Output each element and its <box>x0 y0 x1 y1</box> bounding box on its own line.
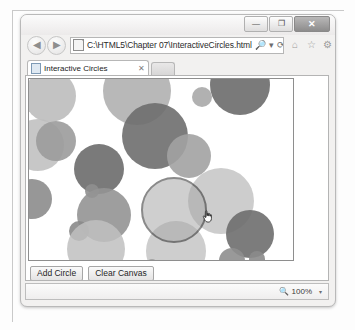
canvas-circle[interactable] <box>36 121 76 161</box>
canvas-circle[interactable] <box>28 78 76 122</box>
zoom-control[interactable]: 🔍 100% ▾ <box>279 287 322 296</box>
content-viewport: Add Circle Clear Canvas <box>25 75 329 281</box>
page-background: — ❐ ✕ ◀ ▶ C:\HTML5\Chapter 07\Interactiv… <box>0 0 355 330</box>
forward-button[interactable]: ▶ <box>47 36 66 55</box>
zoom-level-label: 100% <box>292 287 312 296</box>
new-tab-button[interactable] <box>151 62 175 76</box>
navigation-toolbar: ◀ ▶ C:\HTML5\Chapter 07\InteractiveCircl… <box>21 33 335 57</box>
page-border-top <box>12 10 344 11</box>
close-button[interactable]: ✕ <box>294 16 330 32</box>
refresh-icon[interactable]: ⟳ <box>277 41 284 50</box>
minimize-button[interactable]: — <box>244 16 268 32</box>
browser-window: — ❐ ✕ ◀ ▶ C:\HTML5\Chapter 07\Interactiv… <box>20 14 336 307</box>
canvas-circle[interactable] <box>249 251 265 261</box>
search-icon[interactable]: 🔎 <box>255 41 266 50</box>
page-icon <box>73 39 84 51</box>
tab-favicon-icon <box>31 63 41 74</box>
tab-label: Interactive Circles <box>44 64 138 73</box>
add-circle-button[interactable]: Add Circle <box>30 266 83 281</box>
canvas-circle[interactable] <box>141 177 207 243</box>
canvas-circle[interactable] <box>210 78 270 115</box>
zoom-chevron-down-icon[interactable]: ▾ <box>319 288 322 295</box>
back-button[interactable]: ◀ <box>27 36 46 55</box>
tab-close-icon[interactable]: ✕ <box>138 65 145 73</box>
window-controls: — ❐ ✕ <box>244 16 330 32</box>
interactive-circles-canvas[interactable] <box>28 78 294 261</box>
tab-bar: Interactive Circles ✕ <box>21 58 335 76</box>
address-input[interactable]: C:\HTML5\Chapter 07\InteractiveCircles.h… <box>87 40 252 50</box>
status-bar: 🔍 100% ▾ <box>25 283 329 300</box>
gear-icon[interactable]: ⚙ <box>319 37 335 53</box>
favorites-star-icon[interactable]: ☆ <box>303 37 319 53</box>
home-icon[interactable]: ⌂ <box>287 37 303 53</box>
page-border-left <box>12 10 13 322</box>
clear-canvas-button[interactable]: Clear Canvas <box>88 266 154 281</box>
zoom-magnifier-icon: 🔍 <box>279 288 289 296</box>
chevron-down-icon[interactable]: ▾ <box>269 41 274 50</box>
tab-interactive-circles[interactable]: Interactive Circles ✕ <box>27 60 149 76</box>
canvas-circle[interactable] <box>28 179 52 219</box>
canvas-circle[interactable] <box>74 144 124 194</box>
canvas-button-row: Add Circle Clear Canvas <box>30 266 154 281</box>
maximize-button[interactable]: ❐ <box>269 16 293 32</box>
address-bar[interactable]: C:\HTML5\Chapter 07\InteractiveCircles.h… <box>70 37 284 54</box>
canvas-circle[interactable] <box>192 87 212 107</box>
